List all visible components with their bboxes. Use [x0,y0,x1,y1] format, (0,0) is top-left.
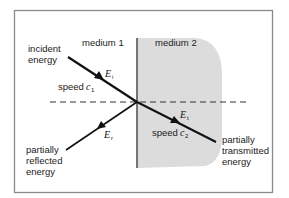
speed-2-label: speed [152,127,178,138]
transmitted-energy-symbol: E [179,109,186,120]
transmitted-label-line3: energy [222,156,251,167]
incident-label-line1: incident [28,43,61,54]
incident-energy-symbol: E [104,68,111,79]
medium-2-region [137,38,222,168]
medium-1-label: medium 1 [82,37,124,48]
reflected-energy-subscript: r [111,135,113,141]
incident-label-line2: energy [28,54,57,65]
incident-energy-subscript: i [112,74,113,80]
speed-1-label: speed [58,81,84,92]
reflected-energy-symbol: E [103,129,110,140]
reflected-label-line3: energy [26,166,55,177]
medium-2-label: medium 2 [155,37,197,48]
transmitted-label-line2: transmitted [222,145,269,156]
refraction-diagram: medium 1 medium 2 incident energy E i sp… [0,0,289,198]
reflected-label-line2: reflected [26,155,62,166]
transmitted-label-line1: partially [222,134,255,145]
reflected-label-line1: partially [26,144,59,155]
